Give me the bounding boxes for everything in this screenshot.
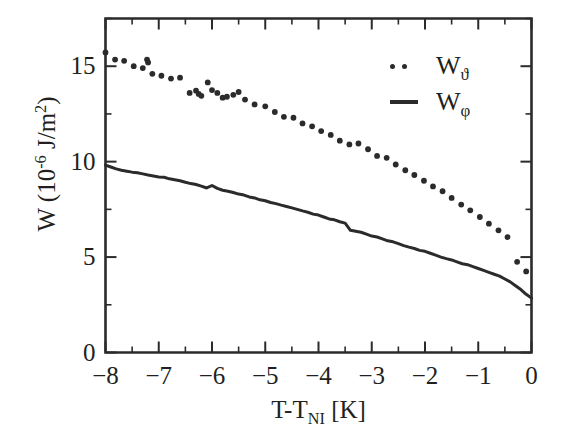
- legend-label-w-theta: Wϑ: [432, 51, 469, 81]
- data-point-W_theta: [187, 90, 193, 96]
- data-point-W_theta: [281, 114, 287, 120]
- data-point-W_theta: [168, 76, 174, 82]
- data-point-W_theta: [214, 90, 220, 96]
- data-point-W_theta: [477, 214, 483, 220]
- y-axis-title-text: W (10-6 J/m2): [33, 96, 60, 231]
- data-point-W_theta: [291, 115, 297, 121]
- data-point-W_theta: [449, 195, 455, 201]
- x-tick-label: −2: [403, 363, 447, 388]
- data-point-W_theta: [346, 142, 352, 148]
- x-tick-label: −6: [190, 363, 234, 388]
- data-point-W_theta: [262, 103, 268, 109]
- chart-figure: −8−7−6−5−4−3−2−10 051015 W (10-6 J/m2) T…: [0, 0, 563, 441]
- data-point-W_theta: [300, 121, 306, 127]
- series-w-phi-line: [106, 165, 532, 298]
- data-point-W_theta: [430, 184, 436, 190]
- x-tick-label: −4: [297, 363, 341, 388]
- data-point-W_theta: [440, 188, 446, 194]
- data-point-W_theta: [328, 132, 334, 138]
- data-point-W_theta: [337, 138, 343, 144]
- data-point-W_theta: [514, 259, 520, 265]
- y-axis-title: W (10-6 J/m2): [33, 54, 61, 274]
- data-point-W_theta: [177, 75, 183, 81]
- data-point-W_theta: [140, 65, 146, 71]
- data-point-W_theta: [356, 141, 362, 147]
- data-point-W_theta: [112, 57, 118, 63]
- data-point-W_theta: [505, 234, 511, 240]
- data-point-W_theta: [365, 146, 371, 152]
- data-point-W_theta: [149, 71, 155, 77]
- data-point-W_theta: [230, 92, 236, 98]
- data-point-W_theta: [411, 172, 417, 178]
- y-tick-label: 0: [52, 340, 96, 365]
- x-tick-label: −7: [137, 363, 181, 388]
- data-point-W_theta: [224, 94, 230, 100]
- x-tick-label: 0: [510, 363, 554, 388]
- data-point-W_theta: [496, 227, 502, 233]
- legend-key-dotted: [388, 64, 432, 69]
- data-point-W_theta: [402, 167, 408, 173]
- legend: Wϑ Wφ: [388, 48, 518, 120]
- data-point-W_theta: [205, 80, 211, 86]
- data-point-W_theta: [523, 268, 529, 274]
- legend-key-solid: [388, 100, 432, 104]
- x-axis-title: T-TNI [K]: [105, 396, 532, 424]
- data-point-W_theta: [458, 202, 464, 208]
- data-point-W_theta: [159, 73, 165, 79]
- x-tick-label: −5: [243, 363, 287, 388]
- data-point-W_theta: [309, 123, 315, 129]
- legend-label-w-phi: Wφ: [432, 87, 470, 117]
- data-point-W_theta: [103, 50, 109, 56]
- series-line-W_phi: [106, 165, 532, 298]
- data-point-W_theta: [467, 207, 473, 213]
- data-point-W_theta: [318, 128, 324, 134]
- data-point-W_theta: [236, 89, 242, 95]
- data-point-W_theta: [486, 221, 492, 227]
- dot-marker-icon: [390, 64, 395, 69]
- data-point-W_theta: [393, 162, 399, 168]
- data-point-W_theta: [121, 58, 127, 64]
- x-tick-label: −3: [350, 363, 394, 388]
- data-point-W_theta: [145, 60, 151, 66]
- data-point-W_theta: [272, 109, 278, 115]
- data-point-W_theta: [209, 87, 215, 93]
- data-point-W_theta: [131, 63, 137, 69]
- data-point-W_theta: [252, 101, 258, 107]
- data-point-W_theta: [198, 93, 204, 99]
- data-point-W_theta: [384, 155, 390, 161]
- data-point-W_theta: [421, 178, 427, 184]
- line-marker-icon: [390, 100, 418, 104]
- data-point-W_theta: [374, 153, 380, 159]
- data-point-W_theta: [242, 97, 248, 103]
- x-tick-label: −8: [84, 363, 128, 388]
- dot-marker-icon: [402, 64, 407, 69]
- x-axis-title-text: T-TNI [K]: [271, 396, 366, 423]
- x-tick-label: −1: [456, 363, 500, 388]
- legend-item-w-phi: Wφ: [388, 84, 518, 120]
- legend-item-w-theta: Wϑ: [388, 48, 518, 84]
